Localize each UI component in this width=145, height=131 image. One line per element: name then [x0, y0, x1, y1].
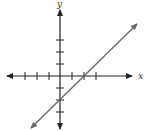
coordinate-plane: x y	[0, 0, 145, 131]
x-axis-label: x	[138, 71, 143, 81]
x-axis: x	[7, 71, 143, 81]
y-axis-label: y	[56, 0, 63, 9]
y-axis: y	[56, 0, 64, 129]
